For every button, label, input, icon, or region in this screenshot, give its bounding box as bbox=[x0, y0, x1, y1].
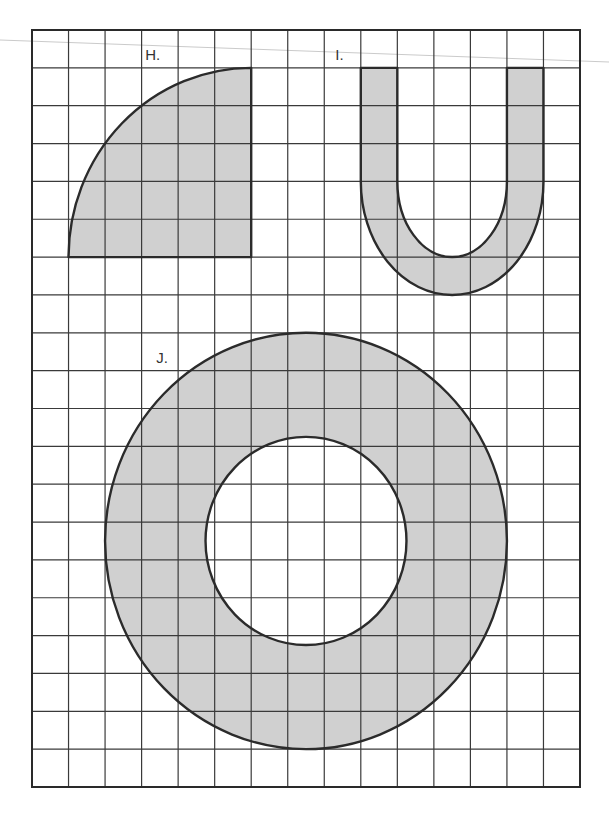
label-h: H. bbox=[145, 46, 160, 63]
grid bbox=[32, 30, 580, 787]
shape-j-fill bbox=[105, 333, 507, 749]
label-j: J. bbox=[156, 349, 168, 366]
label-i: I. bbox=[335, 46, 343, 63]
shape-h-fill bbox=[69, 68, 252, 257]
scan-artifact-line bbox=[0, 40, 609, 62]
shapes-area-diagram: H. I. J. bbox=[0, 0, 609, 815]
